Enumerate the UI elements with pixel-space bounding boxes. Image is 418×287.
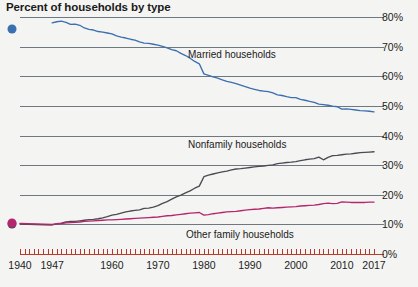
x-axis-tick	[190, 249, 191, 254]
x-axis-tick	[98, 249, 99, 254]
x-axis-tick	[29, 249, 30, 254]
x-axis-tick	[117, 249, 118, 254]
x-axis-tick	[25, 249, 26, 254]
x-axis-tick	[296, 249, 297, 254]
x-axis-tick-label: 2017	[362, 259, 385, 271]
x-axis-tick	[48, 249, 49, 254]
x-axis-tick	[61, 249, 62, 254]
x-axis-tick-label: 2000	[284, 259, 307, 271]
x-axis-tick	[43, 249, 44, 254]
x-axis-tick	[328, 249, 329, 254]
x-axis-tick	[360, 249, 361, 254]
x-axis-tick	[80, 249, 81, 254]
x-axis-tick	[277, 249, 278, 254]
x-axis-tick	[300, 249, 301, 254]
x-axis-tick	[273, 249, 274, 254]
x-axis-tick	[250, 249, 251, 254]
x-axis-tick	[333, 249, 334, 254]
x-axis-tick	[222, 249, 223, 254]
x-axis-tick	[319, 249, 320, 254]
x-axis-tick	[310, 249, 311, 254]
x-axis-tick	[356, 249, 357, 254]
x-axis-tick-label: 1947	[40, 259, 63, 271]
x-axis-tick	[213, 249, 214, 254]
x-axis-tick-label: 2010	[330, 259, 353, 271]
x-axis-tick	[241, 249, 242, 254]
x-axis-tick	[126, 249, 127, 254]
x-axis-tick	[84, 249, 85, 254]
x-axis-tick	[342, 249, 343, 254]
x-axis-tick	[195, 249, 196, 254]
x-axis-tick	[34, 249, 35, 254]
x-axis-tickmarks	[20, 249, 374, 255]
x-axis-tick	[158, 249, 159, 254]
x-axis-tick	[176, 249, 177, 254]
x-axis-tick	[254, 249, 255, 254]
x-axis-tick	[291, 249, 292, 254]
x-axis-tick	[57, 249, 58, 254]
x-axis-tick	[167, 249, 168, 254]
x-axis-tick	[268, 249, 269, 254]
x-axis-tick-label: 1980	[192, 259, 215, 271]
x-axis-tick-label: 1990	[238, 259, 261, 271]
x-axis-tick	[218, 249, 219, 254]
x-axis-tick	[199, 249, 200, 254]
x-axis-tick	[351, 249, 352, 254]
x-axis-tick	[181, 249, 182, 254]
x-axis-tick-label: 1960	[100, 259, 123, 271]
x-axis-tick	[264, 249, 265, 254]
x-axis-tick	[149, 249, 150, 254]
x-axis-tick	[94, 249, 95, 254]
x-axis-tick	[121, 249, 122, 254]
x-axis-tick	[287, 249, 288, 254]
x-axis-tick	[337, 249, 338, 254]
x-axis-tick	[323, 249, 324, 254]
x-axis-tick	[374, 249, 375, 254]
x-axis-tick	[89, 249, 90, 254]
series-label-married: Married households	[188, 49, 276, 60]
x-axis-tick	[282, 249, 283, 254]
line-series	[52, 21, 374, 112]
x-axis-tick	[227, 249, 228, 254]
line-series	[20, 152, 374, 225]
series-start-dot	[8, 24, 17, 33]
x-axis-tick-label: 1940	[8, 259, 31, 271]
chart-container: Percent of households by type 80%70%60%5…	[0, 0, 418, 287]
x-axis-tick	[135, 249, 136, 254]
x-axis-tick	[140, 249, 141, 254]
series-start-dot	[8, 219, 17, 228]
x-axis-tick	[236, 249, 237, 254]
x-axis-tick	[107, 249, 108, 254]
x-axis-tick	[259, 249, 260, 254]
series-label-other-family: Other family households	[186, 229, 294, 240]
x-axis-tick	[369, 249, 370, 254]
x-axis-tick	[103, 249, 104, 254]
x-axis-tick	[346, 249, 347, 254]
x-axis-tick	[144, 249, 145, 254]
x-axis-tick	[20, 249, 21, 254]
x-axis-tick	[38, 249, 39, 254]
x-axis-tick	[305, 249, 306, 254]
x-axis-tick	[52, 249, 53, 254]
x-axis-tick	[153, 249, 154, 254]
x-axis-tick	[245, 249, 246, 254]
x-axis-tick-label: 1970	[146, 259, 169, 271]
x-axis-tick	[112, 249, 113, 254]
x-axis-tick	[163, 249, 164, 254]
x-axis-tick	[130, 249, 131, 254]
series-label-nonfamily: Nonfamily households	[188, 139, 286, 150]
x-axis-tick	[75, 249, 76, 254]
x-axis-tick	[204, 249, 205, 254]
x-axis-tick	[314, 249, 315, 254]
x-axis-tick	[231, 249, 232, 254]
x-axis-tick	[66, 249, 67, 254]
x-axis-tick	[365, 249, 366, 254]
x-axis-tick	[208, 249, 209, 254]
x-axis-tick	[172, 249, 173, 254]
x-axis-tick	[71, 249, 72, 254]
x-axis-tick	[186, 249, 187, 254]
